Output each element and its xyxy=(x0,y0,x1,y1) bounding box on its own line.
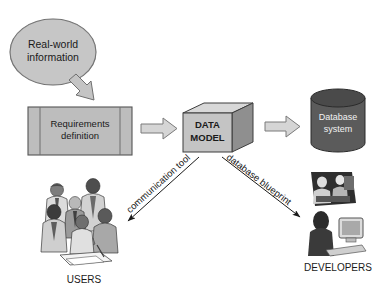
photo-users-group: USERS xyxy=(41,179,118,286)
diagram-canvas: Real-world information Requirements defi… xyxy=(0,0,392,294)
developers-label: DEVELOPERS xyxy=(304,262,372,273)
database-label-line2: system xyxy=(324,124,353,134)
real-world-label-line1: Real-world xyxy=(28,38,78,50)
photo-developers: DEVELOPERS xyxy=(304,172,372,273)
developer-photo-bottom xyxy=(308,211,366,256)
diagram-svg: Real-world information Requirements defi… xyxy=(0,0,392,294)
arrow-datamodel-to-database xyxy=(265,116,300,137)
arrow-datamodel-to-developers: database blueprint xyxy=(222,151,300,217)
node-database-system: Database system xyxy=(311,89,365,152)
node-real-world-information: Real-world information xyxy=(10,19,96,85)
requirements-label-line2: definition xyxy=(61,130,99,141)
arrow-label-database-blueprint: database blueprint xyxy=(225,151,294,207)
data-model-label-line2: MODEL xyxy=(190,132,225,143)
database-label-line1: Database xyxy=(319,112,358,122)
arrow-requirements-to-datamodel xyxy=(141,118,177,139)
arrow-label-communication-tool: communication tool xyxy=(124,152,192,215)
node-requirements-definition: Requirements definition xyxy=(28,107,132,155)
data-model-label-line1: DATA xyxy=(195,119,220,130)
node-data-model: DATA MODEL xyxy=(183,103,253,152)
users-label: USERS xyxy=(67,274,102,285)
requirements-label-line1: Requirements xyxy=(50,118,109,129)
developer-photo-top xyxy=(311,172,356,206)
real-world-label-line2: information xyxy=(27,51,79,63)
arrow-realworld-to-requirements xyxy=(69,74,94,100)
arrow-datamodel-to-users: communication tool xyxy=(124,152,199,221)
